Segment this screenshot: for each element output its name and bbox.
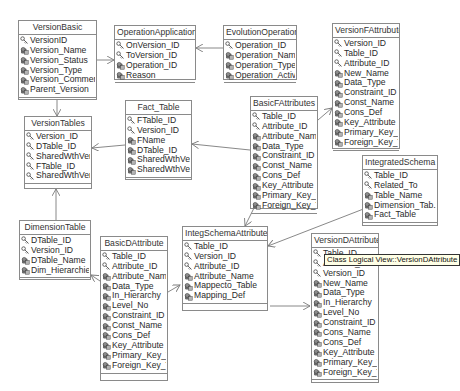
attribute-row[interactable]: Related_To (364, 181, 436, 191)
class-facttable[interactable]: Fact_Table FTable_IDVersion_IDFNameDTabl… (125, 100, 192, 180)
attribute-row[interactable]: Key_Attribute (313, 348, 377, 358)
attribute-row[interactable]: Version_ID (184, 252, 266, 262)
attribute-row[interactable]: Constraint_ID (334, 88, 398, 98)
attribute-icon (184, 282, 193, 291)
attribute-row[interactable]: Key_Attribute (252, 181, 316, 191)
attribute-row[interactable]: New_Name (313, 279, 377, 289)
attribute-row[interactable]: FTable_ID (127, 116, 190, 126)
attribute-row[interactable]: Data_Type (334, 78, 398, 88)
attribute-row[interactable]: Operation_Name (225, 51, 295, 61)
attribute-row[interactable]: DTable_ID (21, 236, 89, 246)
attribute-row[interactable]: Cons_Def (102, 331, 166, 341)
class-operationapplication[interactable]: OperationApplication OnVersion_IDToVersi… (114, 25, 196, 80)
attribute-row[interactable]: SharedWthVer1 (127, 165, 190, 175)
attribute-row[interactable]: Primary_Key_To (334, 128, 398, 138)
attribute-row[interactable]: Attribute_ID (184, 262, 266, 272)
attribute-row[interactable]: Foreign_Key_To (313, 368, 377, 378)
attribute-row[interactable]: Cons_Def (252, 171, 316, 181)
attribute-row[interactable]: Primary_Key_To (313, 358, 377, 368)
attribute-row[interactable]: Attribute_ID (252, 122, 316, 132)
attribute-row[interactable]: Data_Type (102, 282, 166, 292)
attribute-row[interactable]: Table_Name (364, 191, 436, 201)
attribute-row[interactable]: Operation_ID (116, 61, 194, 71)
attribute-row[interactable]: Version_Comment (20, 75, 95, 85)
attribute-row[interactable]: OnVersion_ID (116, 41, 194, 51)
attribute-row[interactable]: Key_Attribute (102, 341, 166, 351)
attribute-row[interactable]: Const_Name (252, 161, 316, 171)
attribute-row[interactable]: Table_ID (102, 252, 166, 262)
attribute-row[interactable]: Operation_Activity (225, 71, 295, 81)
attribute-row[interactable]: Version_ID (313, 269, 377, 279)
attribute-row[interactable]: Dimension_Tab... (364, 201, 436, 211)
attribute-row[interactable]: Key_Attribute (334, 118, 398, 128)
attribute-row[interactable]: In_Hierarchy (313, 298, 377, 308)
attribute-row[interactable]: Primary_Key_To (252, 191, 316, 201)
attribute-row[interactable]: Cons_Def (313, 338, 377, 348)
attribute-row[interactable]: Version_Type (20, 66, 95, 76)
attribute-name: DTable_ID (31, 236, 71, 246)
class-dimensiontable[interactable]: DimensionTable DTable_IDVersion_IDDTable… (19, 220, 91, 280)
attribute-row[interactable]: DTable_ID (26, 142, 90, 152)
attribute-row[interactable]: Const_Name (334, 98, 398, 108)
attribute-row[interactable]: Foreign_Key_To (102, 361, 166, 371)
attribute-row[interactable]: Table_ID (184, 242, 266, 252)
attribute-row[interactable]: Version_Name (20, 46, 95, 56)
class-basicfattributes[interactable]: BasicFAttributes Table_IDAttribute_IDAtt… (250, 96, 318, 209)
class-evolutionoperation[interactable]: EvolutionOperation Operation_IDOperation… (223, 25, 297, 80)
class-integratedschema[interactable]: IntegratedSchema Table_IDRelated_ToTable… (362, 155, 438, 226)
attribute-row[interactable]: Constraint_ID (252, 151, 316, 161)
class-versionfattribute[interactable]: VersionFAttrubute Version_IDTable_IDAttr… (332, 23, 400, 149)
attribute-row[interactable]: Data_Type (313, 288, 377, 298)
attribute-row[interactable]: Foreign_Key_To (334, 138, 398, 148)
attribute-row[interactable]: Parent_Version (20, 85, 95, 95)
attribute-row[interactable]: Cons_Def (334, 108, 398, 118)
attribute-row[interactable]: Dim_Hierarchies (21, 266, 89, 276)
attribute-row[interactable]: Operation_ID (225, 41, 295, 51)
class-integschemaattribute[interactable]: IntegSchemaAttribute Table_IDVersion_IDA… (182, 226, 268, 311)
class-basicdattribute[interactable]: BasicDAttribute Table_IDAttribute_IDAttr… (100, 236, 168, 381)
attribute-row[interactable]: SharedWthVer1 (26, 171, 90, 181)
attribute-row[interactable]: Version_ID (127, 126, 190, 136)
attribute-row[interactable]: Const_Name (102, 321, 166, 331)
class-versiontables[interactable]: VersionTables Version_IDDTable_IDSharedW… (24, 116, 92, 189)
attribute-row[interactable]: DTable_ID (127, 146, 190, 156)
attribute-row[interactable]: Foreign_Key_To (252, 201, 316, 211)
attribute-row[interactable]: VersionID (20, 36, 95, 46)
attribute-name: Version_ID (31, 246, 73, 256)
attribute-row[interactable]: Mapping_Def (184, 291, 266, 301)
attribute-row[interactable]: Table_ID (252, 112, 316, 122)
attribute-row[interactable]: Attribute_Name (184, 272, 266, 282)
attribute-row[interactable]: ToVersion_ID (116, 51, 194, 61)
attribute-row[interactable]: Attribute_ID (334, 59, 398, 69)
attribute-name: Operation_ID (126, 61, 177, 71)
attribute-row[interactable]: Version_Status (20, 56, 95, 66)
attribute-row[interactable]: Table_ID (364, 171, 436, 181)
attribute-row[interactable]: DTable_Name (21, 256, 89, 266)
attribute-row[interactable]: Operation_Type (225, 61, 295, 71)
attribute-row[interactable]: In_Hierarchy (102, 291, 166, 301)
attribute-row[interactable]: Level_No (313, 308, 377, 318)
attribute-row[interactable]: Version_ID (21, 246, 89, 256)
attribute-row[interactable]: Level_No (102, 301, 166, 311)
attribute-row[interactable]: Version_ID (26, 132, 90, 142)
attribute-row[interactable]: FName (127, 136, 190, 146)
attribute-row[interactable]: Fact_Table (364, 210, 436, 220)
attribute-row[interactable]: SharedWthVer (127, 155, 190, 165)
attribute-row[interactable]: Attribute_Name (102, 272, 166, 282)
attribute-row[interactable]: Reason (116, 71, 194, 81)
attribute-row[interactable]: Version_ID (334, 39, 398, 49)
attribute-row[interactable]: Constraint_ID (313, 318, 377, 328)
attribute-row[interactable]: Attribute_ID (102, 262, 166, 272)
class-title: BasicDAttribute (101, 237, 167, 251)
attribute-row[interactable]: Table_ID (334, 49, 398, 59)
attribute-row[interactable]: Data_Type (252, 142, 316, 152)
class-versionbasic[interactable]: VersionBasic VersionIDVersion_NameVersio… (18, 20, 97, 100)
attribute-row[interactable]: Attribute_Name (252, 132, 316, 142)
attribute-row[interactable]: SharedWthVer (26, 152, 90, 162)
attribute-row[interactable]: Cons_Name (313, 328, 377, 338)
attribute-row[interactable]: Constraint_ID (102, 311, 166, 321)
attribute-row[interactable]: FTable_ID (26, 162, 90, 172)
attribute-row[interactable]: Mappecto_Table (184, 281, 266, 291)
attribute-row[interactable]: New_Name (334, 69, 398, 79)
attribute-row[interactable]: Primary_Key_To (102, 351, 166, 361)
